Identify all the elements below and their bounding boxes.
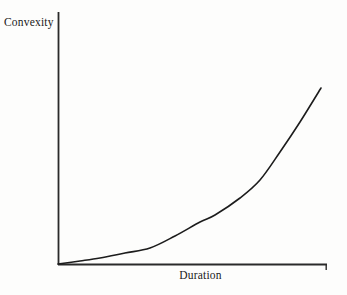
x-axis-label: Duration: [0, 269, 347, 281]
convexity-duration-chart: Convexity Duration: [0, 0, 347, 295]
convexity-curve: [58, 88, 321, 264]
y-axis-label: Convexity: [4, 16, 54, 28]
chart-plot-area: [0, 0, 347, 295]
